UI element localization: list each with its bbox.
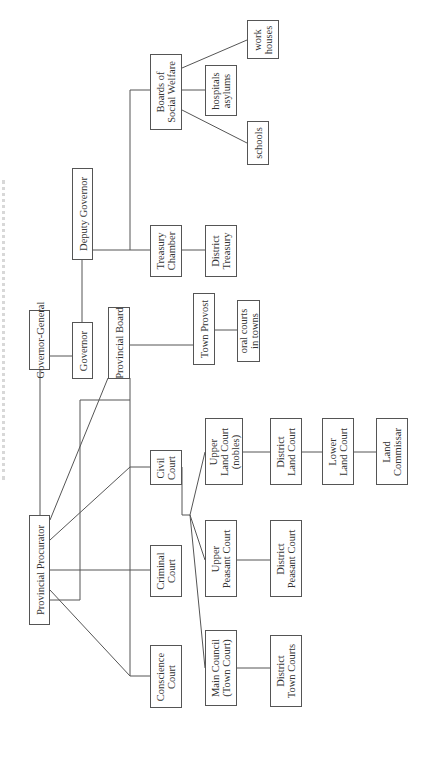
node-town-provost: Town Provost [193,293,215,365]
node-label: Boards of Social Welfare [155,61,177,123]
node-district-town-courts: District Town Courts [270,635,302,707]
node-schools: schools [247,121,269,165]
node-label: schools [253,127,264,159]
connector-line [182,40,247,68]
node-label: Upper Land Court (nobles) [208,427,241,475]
node-criminal-court: Criminal Court [150,545,182,597]
node-civil-court: Civil Court [150,450,182,485]
connector-line [50,590,130,676]
node-land-commissar: Land Commissar [376,418,408,485]
node-label: Civil Court [155,456,177,480]
node-label: Criminal Court [155,552,177,589]
node-district-peasant-court: District Peasant Court [270,520,302,597]
node-label: Upper Peasant Court [210,529,232,588]
node-provincial-procurator: Provincial Procurator [29,515,50,625]
connector-line [50,467,130,540]
node-deputy-governor: Deputy Governor [72,168,93,260]
node-provincial-board: Provincial Board [108,307,130,379]
node-label: Treasury Chamber [155,232,177,271]
node-label: Provincial Board [114,307,125,378]
node-label: District Town Courts [275,644,297,698]
node-treasury-chamber: Treasury Chamber [150,225,182,277]
node-label: Provincial Procurator [34,525,45,615]
node-label: Main Council (Town Court) [210,639,232,697]
node-governor: Governor [72,322,93,379]
node-work-houses: work houses [247,20,279,59]
node-label: Conscience Court [155,652,177,700]
node-upper-peasant-court: Upper Peasant Court [205,520,237,597]
node-label: District Land Court [275,427,297,475]
node-boards-social-welfare: Boards of Social Welfare [150,54,182,130]
node-district-treasury: District Treasury [205,225,237,277]
node-oral-courts: oral courts in towns [237,300,260,362]
node-hospitals-asylums: hospitals asylums [205,65,237,116]
node-district-land-court: District Land Court [270,418,302,485]
node-label: work houses [252,25,274,54]
node-label: Governor [77,330,88,370]
connector-line [50,378,108,520]
node-governor-general: Governor-General [29,310,50,370]
node-label: Land Commissar [381,428,403,476]
node-label: Deputy Governor [77,177,88,251]
node-label: District Treasury [210,233,232,270]
node-main-council: Main Council (Town Court) [205,630,237,706]
connector-line [190,452,205,515]
node-label: Governor-General [34,302,45,379]
node-lower-land-court: Lower Land Court [322,418,354,485]
node-label: oral courts in towns [238,309,260,354]
node-label: Lower Land Court [327,427,349,475]
node-label: Town Provost [199,300,210,358]
node-upper-land-court: Upper Land Court (nobles) [205,418,243,485]
node-label: hospitals asylums [210,72,232,109]
node-conscience-court: Conscience Court [150,645,182,708]
node-label: District Peasant Court [275,529,297,588]
